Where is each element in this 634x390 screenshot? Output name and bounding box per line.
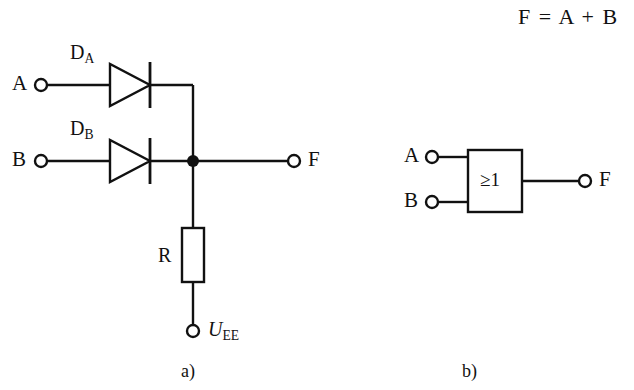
- input-label-a: A: [12, 73, 27, 94]
- gate-input-terminal-a[interactable]: [426, 151, 438, 163]
- figure-root: F = A + B A B F DA DB R UEE A B F ≥1 a) …: [0, 0, 634, 390]
- gate-input-label-b: B: [404, 190, 418, 211]
- input-terminal-b[interactable]: [35, 155, 47, 167]
- caption-panel-b: b): [462, 362, 477, 380]
- supply-terminal-uee[interactable]: [187, 325, 199, 337]
- gate-output-label-f: F: [599, 169, 611, 190]
- diode-a-label-sub: A: [84, 51, 94, 66]
- diode-b-body-icon: [110, 140, 150, 182]
- diode-b-label-main: D: [70, 117, 84, 139]
- panel-b-circuit: [426, 150, 591, 212]
- diode-a-label: DA: [70, 42, 94, 65]
- supply-label-sub: EE: [222, 328, 239, 343]
- gate-output-terminal-f[interactable]: [579, 175, 591, 187]
- input-label-b: B: [12, 149, 26, 170]
- input-terminal-a[interactable]: [35, 79, 47, 91]
- gate-input-terminal-b[interactable]: [426, 196, 438, 208]
- resistor-body-icon: [182, 228, 204, 282]
- panel-a-circuit: [35, 62, 300, 337]
- output-label-f: F: [308, 149, 320, 170]
- or-gate-symbol-text: ≥1: [480, 170, 500, 189]
- gate-input-label-a: A: [404, 145, 419, 166]
- diode-b-label: DB: [70, 118, 94, 141]
- diode-b-label-sub: B: [84, 127, 93, 142]
- diode-a-body-icon: [110, 64, 150, 106]
- diode-a-label-main: D: [70, 41, 84, 63]
- caption-panel-a: a): [181, 362, 195, 380]
- resistor-label: R: [158, 245, 171, 265]
- supply-label-main: U: [208, 318, 222, 340]
- supply-label-uee: UEE: [208, 319, 239, 342]
- schematic-canvas: [0, 0, 634, 390]
- boolean-equation: F = A + B: [518, 6, 619, 28]
- output-terminal-f[interactable]: [288, 155, 300, 167]
